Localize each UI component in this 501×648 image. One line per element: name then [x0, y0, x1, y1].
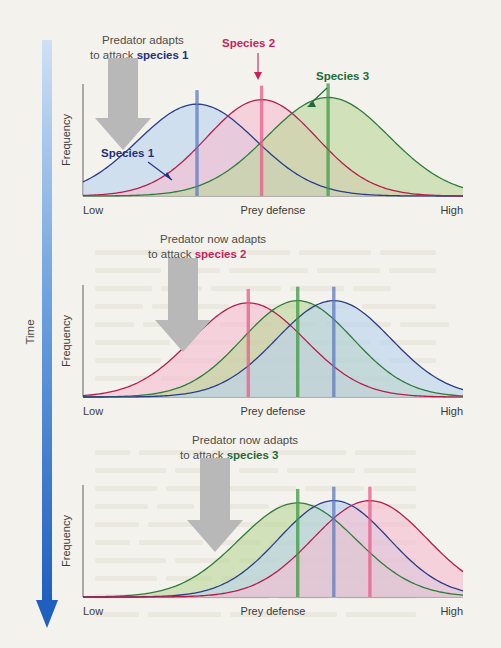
bleed-text-fragment: [95, 450, 130, 455]
y-axis-label-1: Frequency: [60, 114, 72, 166]
x-min-label-3: Low: [83, 605, 103, 617]
bleed-text-fragment: [355, 450, 416, 455]
bleed-text-fragment: [95, 468, 166, 473]
bleed-text-fragment: [317, 268, 380, 273]
bleed-text-fragment: [299, 250, 371, 255]
bleed-text-fragment: [239, 468, 278, 473]
time-axis-arrow: Time: [24, 40, 58, 628]
x-axis-label-2: Prey defense: [241, 405, 306, 417]
time-arrow-shaft: [42, 40, 52, 602]
callout-line1-panel3: Predator now adapts: [192, 434, 298, 446]
bleed-text-fragment: [373, 486, 416, 491]
bleed-text-fragment: [400, 322, 449, 327]
bleed-text-fragment: [287, 468, 355, 473]
bleed-text-fragment: [95, 504, 148, 509]
callout-target-panel1: species 1: [137, 49, 189, 61]
species1-annotation-label: Species 1: [101, 147, 155, 159]
bleed-text-fragment: [364, 468, 416, 473]
callout-target-panel3: species 3: [227, 449, 279, 461]
bleed-text-fragment: [221, 486, 296, 491]
bleed-text-fragment: [95, 540, 130, 545]
bleed-text-fragment: [380, 250, 436, 255]
figure-root: TimeFrequencyLowPrey defenseHighFrequenc…: [0, 0, 501, 648]
bleed-text-fragment: [139, 540, 203, 545]
bleed-text-fragment: [95, 358, 161, 363]
species2-annotation-arrowhead: [254, 72, 262, 80]
callout-target-panel2: species 2: [195, 248, 247, 260]
time-axis-label: Time: [24, 319, 36, 344]
species3-annotation-label: Species 3: [316, 70, 369, 82]
species2-annotation-label: Species 2: [222, 37, 275, 49]
bleed-text-fragment: [269, 450, 346, 455]
bleed-text-fragment: [148, 612, 221, 617]
y-axis-label-2: Frequency: [60, 315, 72, 367]
bleed-text-fragment: [95, 522, 139, 527]
bleed-text-fragment: [95, 286, 152, 291]
bleed-text-fragment: [389, 268, 436, 273]
bleed-text-fragment: [95, 576, 157, 581]
x-axis-label-3: Prey defense: [241, 605, 306, 617]
x-max-label-3: High: [440, 605, 463, 617]
time-arrow-head: [36, 600, 58, 628]
bleed-text-fragment: [157, 504, 194, 509]
x-max-label-2: High: [440, 405, 463, 417]
x-min-label-1: Low: [83, 204, 103, 216]
bleed-text-fragment: [95, 558, 166, 563]
bleed-text-fragment: [353, 286, 391, 291]
bleed-text-fragment: [95, 304, 143, 309]
coevolution-diagram: TimeFrequencyLowPrey defenseHighFrequenc…: [0, 0, 501, 648]
bleed-text-fragment: [95, 268, 161, 273]
bleed-text-fragment: [346, 612, 416, 617]
x-max-label-1: High: [440, 204, 463, 216]
bleed-text-fragment: [95, 486, 157, 491]
bleed-text-fragment: [229, 268, 308, 273]
bleed-text-fragment: [95, 340, 170, 345]
callout-line1-panel1: Predator adapts: [102, 34, 184, 46]
bleed-text-fragment: [362, 304, 436, 309]
y-axis-label-3: Frequency: [60, 515, 72, 567]
callout-line2-panel1: to attack species 1: [90, 49, 189, 61]
bleed-text-fragment: [95, 322, 134, 327]
bleed-text-fragment: [211, 286, 281, 291]
callout-line1-panel2: Predator now adapts: [160, 233, 266, 245]
x-min-label-2: Low: [83, 405, 103, 417]
x-axis-label-1: Prey defense: [241, 204, 306, 216]
bleed-text-fragment: [247, 250, 290, 255]
